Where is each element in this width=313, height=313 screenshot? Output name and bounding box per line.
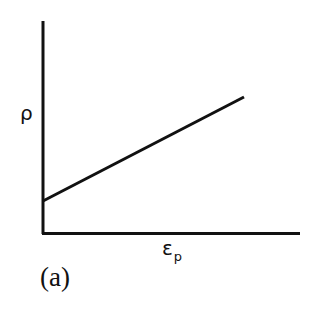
x-axis-label: εp (162, 238, 182, 258)
panel-label: (a) (40, 264, 70, 291)
data-line (43, 97, 244, 201)
figure: ρ εp (a) (0, 0, 313, 313)
x-axis-label-main: ε (162, 236, 173, 260)
x-axis-label-subscript: p (174, 249, 182, 264)
y-axis-label: ρ (20, 103, 33, 123)
